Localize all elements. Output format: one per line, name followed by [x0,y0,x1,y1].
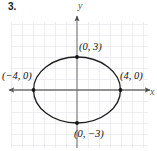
point-label-top: (0, 3) [79,41,102,53]
y-axis-label: y [78,0,82,11]
point-label-left: (−4, 0) [2,70,32,82]
x-axis-label: x [150,86,154,97]
vertex-left [32,88,36,92]
figure-panel: 3. [0,0,157,151]
point-label-right: (4, 0) [120,70,143,82]
vertex-bottom [75,121,79,125]
point-label-bottom: (0, −3) [74,128,104,140]
vertex-right [119,88,123,92]
vertex-top [75,55,79,59]
